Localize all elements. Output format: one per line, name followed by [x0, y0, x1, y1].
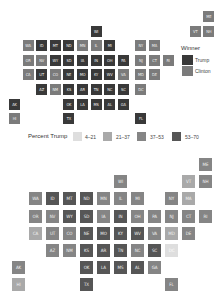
trump-swatch — [182, 55, 193, 65]
state-tile-mt: MT — [50, 40, 61, 51]
state-tile-me: ME — [199, 158, 212, 171]
state-tile-ut: UT — [36, 69, 47, 80]
bin-37-53-swatch — [137, 132, 146, 141]
percent-legend-title: Percent Trump — [28, 133, 67, 139]
state-tile-wa: WA — [29, 192, 42, 205]
state-tile-la: LA — [77, 99, 88, 110]
state-tile-ok: OK — [80, 261, 93, 274]
state-tile-nc: NC — [104, 84, 115, 95]
state-tile-ms: MS — [91, 99, 102, 110]
state-tile-id: ID — [46, 192, 59, 205]
state-tile-ny: NY — [165, 192, 178, 205]
state-tile-va: VA — [148, 227, 161, 240]
state-tile-la: LA — [97, 261, 110, 274]
state-tile-ar: AR — [97, 244, 110, 257]
state-tile-ak: AK — [9, 99, 20, 110]
state-tile-nv: NV — [36, 55, 47, 66]
state-tile-nm: NM — [50, 84, 61, 95]
state-tile-id: ID — [36, 40, 47, 51]
state-tile-mt: MT — [63, 192, 76, 205]
state-tile-ut: UT — [46, 227, 59, 240]
bin-4-21-swatch — [73, 132, 82, 141]
state-tile-nm: NM — [63, 244, 76, 257]
state-tile-de: DE — [182, 227, 195, 240]
state-tile-nj: NJ — [135, 55, 146, 66]
state-tile-nv: NV — [46, 210, 59, 223]
state-tile-mn: MN — [97, 192, 110, 205]
state-tile-co: CO — [63, 227, 76, 240]
state-tile-ks: KS — [80, 244, 93, 257]
state-tile-ma: MA — [182, 192, 195, 205]
bin-37-53-label: 37–53 — [150, 134, 164, 140]
state-tile-tx: TX — [80, 278, 93, 291]
state-tile-md: MD — [165, 227, 178, 240]
state-tile-pa: PA — [148, 210, 161, 223]
state-tile-fl: FL — [165, 278, 178, 291]
state-tile-va: VA — [118, 69, 129, 80]
state-tile-oh: OH — [104, 55, 115, 66]
state-tile-ga: GA — [118, 99, 129, 110]
state-tile-al: AL — [104, 99, 115, 110]
state-tile-wy: WY — [50, 55, 61, 66]
state-tile-wi: WI — [91, 26, 102, 37]
state-tile-ks: KS — [63, 84, 74, 95]
state-tile-wa: WA — [23, 40, 34, 51]
state-tile-mn: MN — [77, 40, 88, 51]
state-tile-co: CO — [50, 69, 61, 80]
trump-legend-label: Trump — [195, 57, 209, 63]
bin-21-37-label: 21–37 — [116, 134, 130, 140]
state-tile-in: IN — [114, 210, 127, 223]
state-tile-me: ME — [203, 11, 214, 22]
state-tile-al: AL — [131, 261, 144, 274]
state-tile-de: DE — [149, 69, 160, 80]
state-tile-ca: CA — [23, 69, 34, 80]
state-tile-oh: OH — [131, 210, 144, 223]
state-tile-wv: WV — [131, 227, 144, 240]
state-tile-sd: SD — [63, 55, 74, 66]
state-tile-az: AZ — [46, 244, 59, 257]
state-tile-ga: GA — [148, 261, 161, 274]
state-tile-md: MD — [135, 69, 146, 80]
state-tile-sd: SD — [80, 210, 93, 223]
state-tile-vt: VT — [182, 175, 195, 188]
state-tile-ct: CT — [182, 210, 195, 223]
state-tile-nd: ND — [63, 40, 74, 51]
state-tile-sc: SC — [148, 244, 161, 257]
state-tile-ri: RI — [163, 55, 174, 66]
state-tile-il: IL — [114, 192, 127, 205]
state-tile-ak: AK — [12, 261, 25, 274]
state-tile-dc: DC — [165, 244, 178, 257]
state-tile-wv: WV — [104, 69, 115, 80]
state-tile-ct: CT — [149, 55, 160, 66]
state-tile-hi: HI — [12, 278, 25, 291]
state-tile-ma: MA — [149, 40, 160, 51]
state-tile-wi: WI — [114, 175, 127, 188]
state-tile-sc: SC — [118, 84, 129, 95]
clinton-swatch — [182, 66, 193, 76]
state-tile-ar: AR — [77, 84, 88, 95]
state-tile-dc: DC — [135, 84, 146, 95]
state-tile-pa: PA — [118, 55, 129, 66]
state-tile-mi: MI — [104, 40, 115, 51]
state-tile-nd: ND — [80, 192, 93, 205]
state-tile-nh: NH — [203, 26, 214, 37]
state-tile-ia: IA — [97, 210, 110, 223]
state-tile-ms: MS — [114, 261, 127, 274]
state-tile-mo: MO — [97, 227, 110, 240]
state-tile-tx: TX — [63, 113, 74, 124]
state-tile-nh: NH — [199, 175, 212, 188]
state-tile-ok: OK — [63, 99, 74, 110]
state-tile-fl: FL — [135, 113, 146, 124]
state-tile-tn: TN — [91, 84, 102, 95]
state-tile-ia: IA — [77, 55, 88, 66]
state-tile-mi: MI — [131, 192, 144, 205]
state-tile-ri: RI — [199, 210, 212, 223]
bin-53-70-label: 53–70 — [185, 134, 199, 140]
bin-21-37-swatch — [103, 132, 112, 141]
state-tile-vt: VT — [190, 26, 201, 37]
state-tile-il: IL — [91, 40, 102, 51]
state-tile-nj: NJ — [165, 210, 178, 223]
bin-4-21-label: 4–21 — [85, 134, 96, 140]
winner-legend-title: Winner — [181, 45, 200, 51]
state-tile-hi: HI — [9, 113, 20, 124]
